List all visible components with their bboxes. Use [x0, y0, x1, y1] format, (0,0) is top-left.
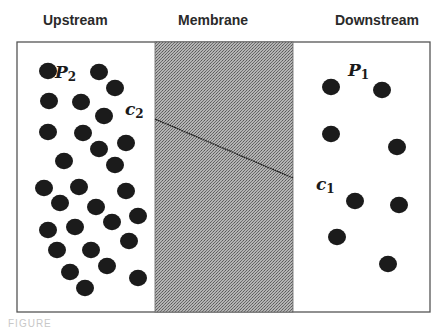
molecule-dot [51, 195, 69, 211]
molecule-dot [39, 222, 57, 238]
molecule-dot [66, 219, 84, 235]
molecule-dot [346, 193, 364, 209]
molecule-dot [379, 256, 397, 272]
molecule-dot [87, 199, 105, 215]
molecule-dot [48, 242, 66, 258]
membrane-region [155, 42, 293, 312]
molecule-dot [39, 124, 57, 140]
molecule-dot [106, 80, 124, 96]
molecule-dot [322, 79, 340, 95]
molecule-dot [82, 242, 100, 258]
molecule-dot [373, 82, 391, 98]
molecule-dot [322, 126, 340, 142]
figure-caption: FIGURE [8, 318, 52, 329]
molecule-dot [129, 208, 147, 224]
molecule-dot [74, 125, 92, 141]
molecule-dot [76, 280, 94, 296]
molecule-dot [90, 64, 108, 80]
molecule-dot [72, 94, 90, 110]
molecule-dot [103, 214, 121, 230]
molecule-dot [117, 135, 135, 151]
molecule-dot [98, 258, 116, 274]
molecule-dot [388, 139, 406, 155]
molecule-dot [55, 153, 73, 169]
molecule-dot [35, 180, 53, 196]
molecule-dot [120, 233, 138, 249]
molecule-dot [106, 157, 124, 173]
molecule-dot [129, 270, 147, 286]
molecule-dot [40, 93, 58, 109]
molecule-dot [90, 141, 108, 157]
molecule-dot [70, 179, 88, 195]
molecule-dot [61, 264, 79, 280]
molecule-dot [328, 229, 346, 245]
molecule-dot [117, 183, 135, 199]
molecule-dot [95, 108, 113, 124]
molecule-dot [390, 197, 408, 213]
